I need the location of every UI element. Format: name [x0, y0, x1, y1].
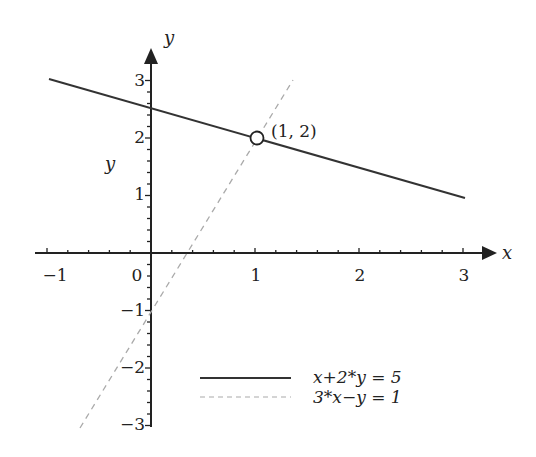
y-tick-label: −2 — [120, 357, 145, 377]
y-axis-label: y — [163, 27, 175, 48]
x-axis-label: x — [502, 242, 512, 263]
y-tick-label: −1 — [120, 300, 145, 320]
chart: −1 0 1 2 3 3 2 1 −1 −2 −3 y x y (1, 2) x… — [0, 0, 536, 457]
x-axis — [35, 246, 497, 260]
intersection-point-label: (1, 2) — [271, 121, 317, 141]
x-tick-label: 3 — [459, 265, 470, 285]
y-axis — [144, 48, 158, 427]
y-tick-label: −3 — [120, 414, 145, 434]
legend-label-1: x+2*y = 5 — [313, 367, 402, 387]
x-axis-arrow-icon — [482, 246, 497, 260]
x-tick-labels: −1 0 1 2 3 — [42, 265, 469, 285]
y-tick-label: 3 — [134, 70, 145, 90]
intersection-point-marker — [251, 132, 264, 145]
legend-label-2: 3*x−y = 1 — [313, 387, 402, 407]
side-y-label: y — [104, 153, 116, 174]
x-tick-label: −1 — [42, 265, 67, 285]
x-tick-label: 0 — [132, 265, 143, 285]
x-tick-label: 2 — [355, 265, 366, 285]
y-tick-label: 2 — [134, 127, 145, 147]
x-tick-label: 1 — [251, 265, 262, 285]
legend: x+2*y = 5 3*x−y = 1 — [200, 367, 402, 407]
y-axis-arrow-icon — [144, 48, 158, 64]
y-tick-label: 1 — [134, 184, 145, 204]
